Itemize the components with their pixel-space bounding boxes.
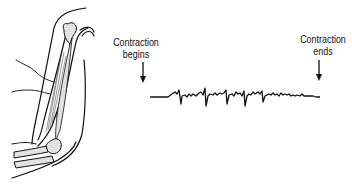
contraction-ends-label: Contraction ends [299,33,347,57]
label-line: Contraction [112,36,160,48]
arm-muscle-illustration [0,0,130,192]
contraction-begins-label: Contraction begins [112,36,160,60]
arrow-down-icon [139,62,147,84]
emg-trace [150,82,330,112]
label-line: ends [299,45,347,57]
label-line: Contraction [299,33,347,45]
label-line: begins [112,48,160,60]
arrow-down-icon [315,60,323,82]
